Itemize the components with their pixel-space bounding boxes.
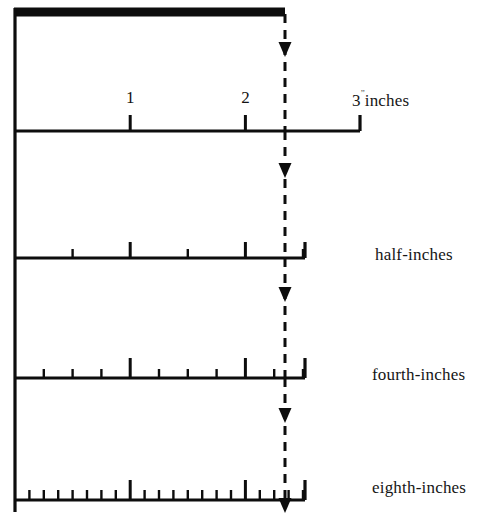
dashed-line-arrowhead xyxy=(279,42,292,57)
ruler-label-eighth-inches: eighth-inches xyxy=(372,478,466,498)
ruler-fourth-inches xyxy=(15,358,305,378)
ruler-half-inches xyxy=(15,242,305,258)
ruler-inches xyxy=(15,115,360,131)
ruler-diagram: 123”incheshalf-inchesfourth-incheseighth… xyxy=(0,0,491,517)
static-rules-layer xyxy=(14,8,360,514)
ruler-label-inches: 3”inches xyxy=(352,91,409,111)
inch-double-prime-mark: ” xyxy=(361,88,365,98)
inch-number-2: 2 xyxy=(241,88,250,108)
top-thick-bar xyxy=(14,8,285,17)
dashed-line-arrowhead xyxy=(279,408,292,423)
dashed-line-arrowhead xyxy=(279,287,292,302)
ruler-label-half-inches: half-inches xyxy=(375,245,453,265)
ruler-label-fourth-inches: fourth-inches xyxy=(372,365,465,385)
dashed-line-arrowhead xyxy=(279,498,292,513)
inch-number-1: 1 xyxy=(126,88,135,108)
ruler-label-unit: inches xyxy=(365,91,410,110)
dashed-line-arrowhead xyxy=(279,163,292,178)
ruler-eighth-inches xyxy=(15,480,305,500)
ruler-label-value: 3 xyxy=(352,91,361,110)
